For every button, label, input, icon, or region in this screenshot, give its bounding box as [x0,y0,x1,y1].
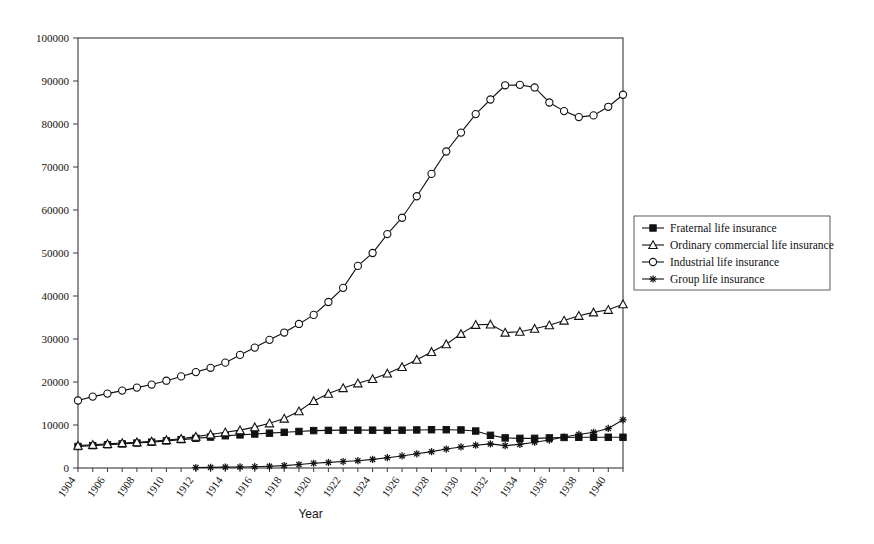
x-tick-label: 1906 [85,474,108,499]
data-point [192,369,199,376]
data-point [325,298,332,305]
data-point [575,431,582,438]
data-point [457,443,464,450]
data-point [295,461,302,468]
data-point [590,112,597,119]
series-3 [192,416,626,471]
data-point [487,440,494,447]
data-point [443,427,449,433]
data-point [222,359,229,366]
data-point [266,430,272,436]
y-tick-label: 70000 [42,161,70,173]
data-point [368,375,376,383]
data-point [280,414,288,422]
data-point [428,427,434,433]
data-point [531,84,538,91]
legend-label: Group life insurance [670,273,765,286]
data-point [340,458,347,465]
x-tick-label: 1936 [527,474,550,499]
series-0 [75,427,626,450]
data-point [296,428,302,434]
y-tick-label: 60000 [42,204,70,216]
data-point [619,416,626,423]
data-point [427,348,435,356]
data-point [605,434,611,440]
data-point [236,351,243,358]
x-tick-label: 1934 [497,474,520,499]
data-point [148,381,155,388]
series-line [78,430,623,447]
data-point [458,427,464,433]
data-point [281,429,287,435]
data-point [619,300,627,308]
y-tick-label: 80000 [42,118,70,130]
y-tick-label: 0 [64,462,70,474]
data-point [281,462,288,469]
data-point [265,419,273,427]
data-point [472,111,479,118]
series-line [78,85,623,401]
data-point [236,463,243,470]
y-tick-label: 90000 [42,75,70,87]
data-point [457,129,464,136]
x-tick-label: 1904 [55,474,78,499]
x-tick-label: 1920 [291,474,314,499]
data-point [487,432,493,438]
data-point [74,397,81,404]
data-point [119,387,126,394]
x-tick-label: 1922 [320,474,342,499]
data-point [309,397,317,405]
line-chart: 0100002000030000400005000060000700008000… [0,0,874,544]
data-point [575,114,582,121]
x-tick-label: 1914 [202,474,225,499]
data-point [310,311,317,318]
y-tick-label: 10000 [42,419,70,431]
data-point [531,439,538,446]
data-point [545,321,553,329]
y-tick-label: 50000 [42,247,70,259]
data-point [457,330,465,338]
data-point [619,91,626,98]
data-point [354,457,361,464]
x-tick-label: 1926 [379,474,402,499]
data-point [369,456,376,463]
data-point [295,407,303,415]
data-point [251,344,258,351]
data-point [281,329,288,336]
data-point [295,320,302,327]
x-tick-label: 1912 [173,474,195,499]
data-point [605,425,612,432]
data-point [383,369,391,377]
data-point [163,377,170,384]
x-tick-label: 1930 [438,474,461,499]
data-point [546,436,553,443]
y-tick-label: 100000 [36,32,70,44]
data-point [325,459,332,466]
x-tick-label: 1928 [409,474,432,499]
y-tick-label: 40000 [42,290,70,302]
data-point [443,445,450,452]
data-point [310,460,317,467]
data-point [473,428,479,434]
x-tick-label: 1918 [261,474,284,499]
data-point [516,441,523,448]
data-point [384,230,391,237]
data-point [649,275,656,282]
data-point [178,373,185,380]
data-point [428,170,435,177]
data-point [560,108,567,115]
x-tick-label: 1910 [144,474,167,499]
data-point [649,258,656,265]
data-point [413,450,420,457]
data-point [428,448,435,455]
legend-item-1[interactable]: Ordinary commercial life insurance [642,239,834,252]
data-point [605,103,612,110]
x-axis-title: Year [298,507,322,521]
data-point [413,355,421,363]
data-point [354,262,361,269]
legend-label: Fraternal life insurance [670,222,777,234]
data-point [414,427,420,433]
data-point [207,364,214,371]
data-point [192,464,199,471]
y-tick-label: 30000 [42,333,70,345]
